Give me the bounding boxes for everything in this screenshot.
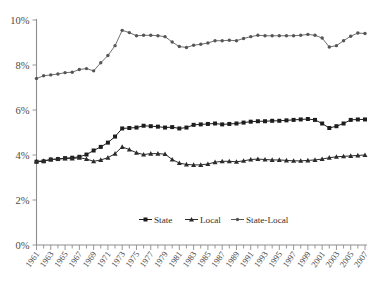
data-point (99, 61, 102, 64)
data-point (327, 126, 331, 130)
x-axis-tick-label: 1981 (166, 249, 184, 269)
data-point (299, 34, 302, 37)
x-axis-tick-label: 1999 (295, 249, 313, 269)
x-axis-tick-label: 1995 (266, 249, 284, 269)
x-axis-tick-label: 1969 (80, 249, 98, 269)
data-point (177, 126, 181, 130)
x-axis-tick-label: 1987 (209, 249, 227, 269)
x-axis-tick-label: 1979 (152, 249, 170, 269)
legend-item-state[interactable]: State (139, 215, 172, 225)
y-axis-tick-label: 4% (16, 150, 30, 161)
y-axis-tick-label: 10% (10, 15, 30, 26)
data-point (156, 34, 159, 37)
data-point (356, 31, 359, 34)
legend-marker-square-icon (144, 218, 148, 222)
data-point (156, 125, 160, 129)
data-point (177, 161, 182, 166)
data-point (99, 145, 103, 149)
x-axis-tick-label: 1997 (280, 249, 298, 269)
data-point (84, 153, 88, 157)
legend-label: State (154, 215, 172, 225)
data-point (313, 34, 316, 37)
data-point (306, 33, 309, 36)
data-point (320, 122, 324, 126)
data-point (228, 39, 231, 42)
chart-container: 0%2%4%6%8%10%196119631965196719691971197… (0, 0, 381, 282)
data-point (334, 124, 338, 128)
x-axis-tick-label: 1961 (23, 249, 41, 269)
x-axis-tick-label: 1965 (52, 249, 70, 269)
data-point (56, 72, 59, 75)
data-point (278, 34, 281, 37)
data-point (170, 40, 173, 43)
data-point (213, 122, 217, 126)
y-axis-tick-label: 6% (16, 105, 30, 116)
x-axis-tick-label: 1989 (223, 249, 241, 269)
legend-marker-dot-icon (236, 218, 239, 221)
data-point (184, 126, 188, 130)
data-point (170, 125, 174, 129)
data-point (142, 34, 145, 37)
line-chart: 0%2%4%6%8%10%196119631965196719691971197… (0, 0, 381, 282)
data-point (134, 126, 138, 130)
data-point (292, 118, 296, 122)
data-point (335, 44, 338, 47)
legend-item-local[interactable]: Local (185, 215, 221, 225)
data-point (113, 135, 117, 139)
data-point (120, 126, 124, 130)
data-point (263, 119, 267, 123)
x-axis-tick-label: 1975 (123, 249, 141, 269)
data-point (35, 77, 38, 80)
data-point (299, 117, 303, 121)
data-point (234, 122, 238, 126)
data-point (206, 122, 210, 126)
data-point (199, 43, 202, 46)
data-point (256, 34, 259, 37)
y-axis-tick-label: 8% (16, 60, 30, 71)
data-point (105, 155, 110, 160)
series-line (37, 30, 366, 78)
data-point (128, 31, 131, 34)
x-axis-tick-label: 1967 (66, 249, 84, 269)
data-point (270, 119, 274, 123)
data-point (120, 144, 125, 149)
data-point (92, 149, 96, 153)
data-point (120, 29, 123, 32)
x-axis-tick-label: 1973 (109, 249, 127, 269)
x-axis-tick-label: 1963 (38, 249, 56, 269)
data-point (178, 45, 181, 48)
data-point (220, 39, 223, 42)
data-point (227, 122, 231, 126)
data-point (342, 122, 346, 126)
data-point (349, 35, 352, 38)
data-point (306, 117, 310, 121)
data-point (363, 117, 367, 121)
data-point (292, 34, 295, 37)
data-point (78, 68, 81, 71)
data-point (342, 39, 345, 42)
data-point (320, 36, 323, 39)
data-point (85, 67, 88, 70)
data-point (249, 35, 252, 38)
x-axis-tick-label: 1971 (95, 249, 113, 269)
legend-label: Local (200, 215, 221, 225)
data-point (284, 118, 288, 122)
data-point (127, 126, 131, 130)
data-point (242, 37, 245, 40)
data-point (106, 141, 110, 145)
data-point (92, 69, 95, 72)
x-axis-tick-label: 2007 (352, 249, 370, 269)
data-point (277, 119, 281, 123)
data-point (349, 118, 353, 122)
data-point (113, 44, 116, 47)
legend-item-state-local[interactable]: State-Local (231, 215, 289, 225)
data-point (42, 74, 45, 77)
series-state (35, 117, 368, 164)
data-point (249, 120, 253, 124)
x-axis-tick-label: 1977 (138, 249, 156, 269)
data-point (71, 71, 74, 74)
data-point (328, 45, 331, 48)
data-point (263, 34, 266, 37)
data-point (135, 34, 138, 37)
data-point (163, 126, 167, 130)
